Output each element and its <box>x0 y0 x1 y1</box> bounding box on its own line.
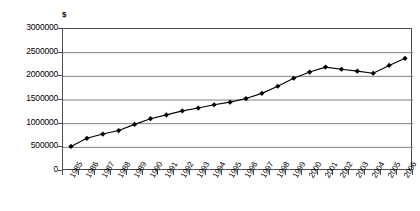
y-axis-tick-label: 3000000 <box>26 23 58 32</box>
data-point-marker <box>387 63 392 68</box>
data-point-marker <box>196 105 201 110</box>
data-point-marker <box>323 65 328 70</box>
data-point-marker <box>275 84 280 89</box>
data-point-marker <box>212 102 217 107</box>
data-point-marker <box>339 67 344 72</box>
data-point-marker <box>148 116 153 121</box>
series-line <box>71 58 405 146</box>
y-axis-tick-label: 1000000 <box>26 118 58 127</box>
data-point-marker <box>100 131 105 136</box>
data-point-marker <box>371 71 376 76</box>
data-point-marker <box>227 100 232 105</box>
data-point-marker <box>259 91 264 96</box>
data-point-marker <box>291 76 296 81</box>
data-point-marker <box>164 112 169 117</box>
x-axis-tick-labels: 1985198619871988198919901991199219931994… <box>62 175 412 211</box>
data-series-line <box>63 29 413 171</box>
data-point-marker <box>116 128 121 133</box>
data-point-marker <box>84 136 89 141</box>
y-axis-tick-labels: 3000000250000020000001500000100000050000… <box>0 0 58 211</box>
data-point-marker <box>180 108 185 113</box>
y-axis-tick-label: 2500000 <box>26 47 58 56</box>
line-chart: $ 30000002500000200000015000001000000500… <box>0 0 420 211</box>
data-point-marker <box>355 69 360 74</box>
y-axis-tick-label: 1500000 <box>26 94 58 103</box>
data-point-marker <box>132 122 137 127</box>
y-axis-title: $ <box>62 10 66 19</box>
data-point-marker <box>243 96 248 101</box>
y-axis-tick-label: 2000000 <box>26 70 58 79</box>
data-point-marker <box>307 69 312 74</box>
plot-area <box>62 28 412 170</box>
data-point-marker <box>68 144 73 149</box>
y-axis-tick-label: 500000 <box>31 141 58 150</box>
data-point-marker <box>402 56 407 61</box>
